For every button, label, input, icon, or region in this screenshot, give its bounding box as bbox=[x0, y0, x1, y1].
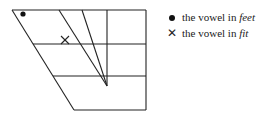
legend-word: feet bbox=[239, 9, 255, 25]
diagonal-outer bbox=[59, 10, 107, 86]
legend: the vowel in feet ✕ the vowel in fit bbox=[165, 9, 255, 41]
fit-vowel-cross bbox=[61, 36, 69, 44]
legend-item-fit: ✕ the vowel in fit bbox=[165, 25, 255, 41]
cross-icon: ✕ bbox=[165, 27, 179, 39]
legend-prefix: the vowel in bbox=[182, 9, 236, 25]
legend-item-feet: the vowel in feet bbox=[165, 9, 255, 25]
legend-prefix: the vowel in bbox=[182, 25, 236, 41]
legend-word: fit bbox=[239, 25, 248, 41]
feet-vowel-dot bbox=[20, 11, 25, 16]
left-edge bbox=[12, 10, 74, 110]
dot-icon bbox=[165, 9, 179, 25]
diagonal-inner bbox=[82, 10, 107, 86]
